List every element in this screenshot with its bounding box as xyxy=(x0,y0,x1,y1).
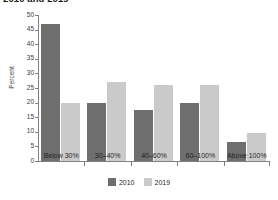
y-axis-tick-label: 15 xyxy=(12,114,34,121)
y-axis-tick-label: 25 xyxy=(12,85,34,92)
y-axis-tick-mark xyxy=(35,103,38,104)
y-axis-tick-label: 40 xyxy=(12,41,34,48)
y-axis-tick-mark xyxy=(35,44,38,45)
y-axis-tick-label: 0 xyxy=(12,158,34,165)
y-axis-line xyxy=(38,15,39,162)
x-axis-label: 60–100% xyxy=(177,152,223,159)
y-axis-tick-mark xyxy=(35,132,38,133)
chart-title: 2010 and 2019 xyxy=(3,0,69,4)
chart-legend: 20102019 xyxy=(0,178,278,186)
y-axis-tick-label: 35 xyxy=(12,55,34,62)
bar-2019-40-60-[interactable] xyxy=(154,85,173,161)
y-axis-tick-mark xyxy=(35,59,38,60)
y-axis-tick-label: 45 xyxy=(12,26,34,33)
y-axis-tick-mark xyxy=(35,161,38,162)
x-axis-line xyxy=(38,161,270,162)
legend-label: 2010 xyxy=(119,179,135,186)
y-axis-tick-mark xyxy=(35,15,38,16)
legend-item-2010[interactable]: 2010 xyxy=(108,178,135,186)
bar-2010-below-30-[interactable] xyxy=(41,24,60,161)
bar-2019-60-100-[interactable] xyxy=(200,85,219,161)
x-axis-tick-mark xyxy=(269,162,270,166)
legend-swatch-icon xyxy=(108,178,116,186)
y-axis-tick-mark xyxy=(35,117,38,118)
bar-group xyxy=(86,15,132,161)
y-axis-tick-label: 30 xyxy=(12,70,34,77)
y-axis-tick-mark xyxy=(35,73,38,74)
legend-label: 2019 xyxy=(155,179,171,186)
bar-chart-figure: 2010 and 2019 Percent 051015202530354045… xyxy=(0,0,278,200)
x-axis-tick-mark xyxy=(224,162,225,166)
y-axis-tick-mark xyxy=(35,88,38,89)
bar-group xyxy=(133,15,179,161)
y-axis-tick-mark xyxy=(35,146,38,147)
x-axis-tick-mark xyxy=(84,162,85,166)
legend-swatch-icon xyxy=(144,178,152,186)
bar-2019-30-40-[interactable] xyxy=(107,82,126,161)
bar-group xyxy=(226,15,272,161)
x-axis-tick-mark xyxy=(131,162,132,166)
y-axis-tick-mark xyxy=(35,30,38,31)
bar-group xyxy=(179,15,225,161)
legend-item-2019[interactable]: 2019 xyxy=(144,178,171,186)
y-axis-tick-label: 50 xyxy=(12,12,34,19)
x-axis-label: 30–40% xyxy=(84,152,130,159)
x-axis-label: 40–60% xyxy=(131,152,177,159)
plot-area: 05101520253035404550 xyxy=(38,15,270,162)
x-axis-label: Below 30% xyxy=(38,152,84,159)
x-axis-label: Above 100% xyxy=(224,152,270,159)
y-axis-tick-label: 10 xyxy=(12,128,34,135)
bar-group xyxy=(40,15,86,161)
y-axis-tick-label: 5 xyxy=(12,143,34,150)
x-axis-tick-mark xyxy=(177,162,178,166)
y-axis-tick-label: 20 xyxy=(12,99,34,106)
